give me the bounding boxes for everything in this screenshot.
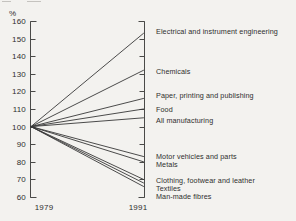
axes-layer xyxy=(31,22,145,198)
figure: % 1979 1991 6070809010011012013014015016… xyxy=(0,0,296,221)
series-line-5 xyxy=(31,127,144,157)
y-tick-label: 60 xyxy=(17,193,27,202)
y-tick-label: 150 xyxy=(12,35,26,44)
series-label-6: Metals xyxy=(156,160,178,169)
y-tick-label: 140 xyxy=(12,52,26,61)
y-tick-label: 130 xyxy=(12,70,26,79)
y-tick-label: 90 xyxy=(17,140,27,149)
series-label-3: Food xyxy=(156,105,173,114)
series-label-0: Electrical and instrument engineering xyxy=(156,27,278,36)
series-line-8 xyxy=(31,127,144,183)
y-tick-label: 70 xyxy=(17,175,27,184)
x-tick-label-1991: 1991 xyxy=(129,203,148,212)
series-label-9: Man-made fibres xyxy=(156,192,212,201)
series-line-7 xyxy=(31,127,144,180)
x-tick-label-1979: 1979 xyxy=(35,203,54,212)
y-tick-label: 110 xyxy=(13,105,27,114)
series-label-4: All manufacturing xyxy=(156,116,213,125)
y-tick-label: 80 xyxy=(17,158,27,167)
y-tick-label: 120 xyxy=(12,87,26,96)
series-label-2: Paper, printing and publishing xyxy=(156,91,254,100)
series-layer xyxy=(31,33,144,186)
fan-chart-svg: % 1979 1991 6070809010011012013014015016… xyxy=(0,0,296,221)
y-tick-label: 160 xyxy=(12,17,26,26)
series-label-1: Chemicals xyxy=(156,67,191,76)
y-tick-label: 100 xyxy=(12,123,26,132)
